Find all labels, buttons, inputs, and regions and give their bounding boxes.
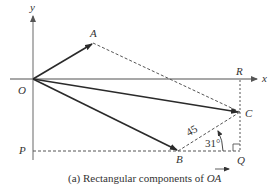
vector-OA [33, 44, 92, 79]
vector-OB [33, 79, 177, 150]
vector-OC [33, 79, 238, 112]
point-label-O: O [18, 84, 26, 96]
caption: (a) Rectangular components of OA [68, 172, 222, 185]
dashed-A-to-C [93, 43, 240, 112]
point-label-R: R [235, 65, 243, 77]
length-label-45: 45 [184, 122, 200, 138]
caption-prefix: (a) Rectangular components of [68, 172, 207, 185]
angle-label-31: 31° [205, 137, 220, 149]
right-angle-marker [233, 144, 240, 151]
point-label-A: A [89, 27, 97, 39]
point-label-P: P [18, 144, 26, 156]
y-axis-label: y [29, 1, 35, 13]
point-label-Q: Q [237, 154, 245, 166]
point-label-C: C [245, 107, 253, 119]
caption-vector: OA [207, 172, 222, 184]
x-axis-label: x [261, 72, 267, 84]
point-label-B: B [176, 153, 183, 165]
vector-diagram: y x O A R C P B Q 45 31° (a) Rectangular… [0, 0, 274, 185]
